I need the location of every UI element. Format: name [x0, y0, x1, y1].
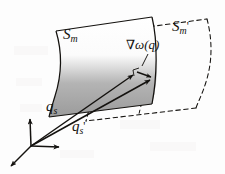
- label-vector-qs-prime-base: q: [72, 118, 80, 134]
- label-surface-m: Sm: [63, 27, 78, 44]
- label-gradient-omega: ∇ω(q): [126, 38, 159, 51]
- label-surface-m-prime: Sm': [172, 19, 189, 36]
- label-surface-m-sub: m: [71, 33, 78, 44]
- nabla-symbol: ∇: [126, 37, 135, 52]
- label-surface-m-base: S: [63, 26, 71, 42]
- label-vector-qs-prime-mark: ': [83, 120, 85, 133]
- label-surface-m-prime-base: S: [172, 18, 180, 34]
- axis-down-left: [11, 146, 31, 166]
- axis-right: [31, 146, 59, 147]
- label-vector-qs-prime: qs': [72, 119, 85, 136]
- gradient-argument: (q): [144, 37, 159, 52]
- diagram-canvas: [0, 0, 225, 174]
- label-surface-m-prime-mark: ': [187, 20, 189, 33]
- label-vector-qs-sub: s: [54, 105, 58, 116]
- axis-up: [30, 119, 31, 146]
- label-vector-qs: qs: [46, 99, 57, 116]
- omega-symbol: ω: [135, 37, 144, 52]
- label-surface-m-prime-sub: m: [180, 25, 187, 36]
- label-vector-qs-base: q: [46, 98, 54, 114]
- surface-gradient-diagram: Sm Sm' ∇ω(q) qs qs': [0, 0, 225, 174]
